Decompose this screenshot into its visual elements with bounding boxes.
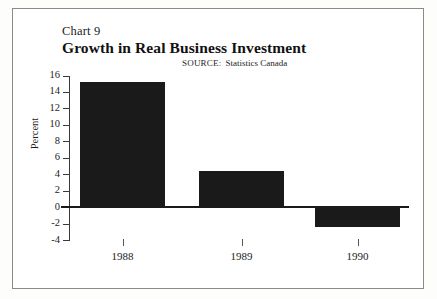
y-axis-tick	[63, 240, 69, 241]
y-axis-tick	[63, 141, 69, 142]
figure-container: Chart 9 Growth in Real Business Investme…	[0, 0, 437, 299]
y-axis-tick-label: -4	[30, 235, 60, 245]
y-axis-tick-label: 2	[30, 185, 60, 195]
x-axis-tick	[242, 239, 243, 246]
y-axis-tick	[63, 125, 69, 126]
y-axis-tick	[63, 76, 69, 77]
y-axis-tick-label: 12	[30, 103, 60, 113]
x-axis-tick-label-1989: 1989	[202, 250, 282, 262]
y-axis-tick-label: 0	[30, 202, 60, 212]
bar-1990	[315, 208, 400, 227]
y-axis-tick-label: 10	[30, 119, 60, 129]
bar-1989	[199, 171, 284, 208]
zero-baseline	[61, 206, 409, 208]
y-axis-tick-label: -2	[30, 218, 60, 228]
y-axis-tick	[63, 191, 69, 192]
y-axis-tick-label: 8	[30, 136, 60, 146]
y-axis-tick-label: 16	[30, 70, 60, 80]
x-axis-tick	[358, 239, 359, 246]
x-axis-tick-label-1990: 1990	[318, 250, 398, 262]
plot-area: Percent 1614121086420-2-4 198819891990	[0, 0, 437, 299]
x-axis-tick-label-1988: 1988	[83, 250, 163, 262]
y-axis-tick-label: 4	[30, 169, 60, 179]
x-axis-tick	[123, 239, 124, 246]
y-axis-tick	[63, 92, 69, 93]
y-axis-line	[69, 76, 70, 241]
y-axis-tick	[63, 174, 69, 175]
y-axis-tick	[63, 224, 69, 225]
y-axis-tick-label: 6	[30, 152, 60, 162]
bar-1988	[80, 82, 165, 208]
y-axis-tick	[63, 108, 69, 109]
y-axis-tick	[63, 158, 69, 159]
y-axis-tick-label: 14	[30, 86, 60, 96]
